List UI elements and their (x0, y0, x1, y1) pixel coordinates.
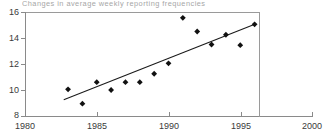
data-point (252, 21, 258, 27)
data-point (65, 86, 71, 92)
data-point (137, 79, 143, 85)
chart-figure: Changes in average weekly reporting freq… (0, 0, 330, 140)
data-point (237, 42, 243, 48)
data-point (80, 101, 86, 107)
data-point (166, 60, 172, 66)
data-point (151, 71, 157, 77)
data-point (108, 87, 114, 93)
data-point (94, 79, 100, 85)
data-layer (0, 0, 330, 140)
data-point (194, 29, 200, 35)
data-point (123, 79, 129, 85)
data-point (180, 15, 186, 21)
